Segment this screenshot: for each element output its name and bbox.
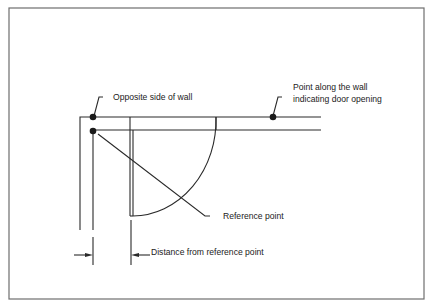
label-door-point-line2: indicating door opening <box>293 94 382 104</box>
arrowhead-right-icon <box>85 253 93 257</box>
leader-reference-point <box>98 134 210 216</box>
label-door-point-line1: Point along the wall <box>293 82 368 92</box>
dot-opposite-side <box>90 114 97 121</box>
leader-opposite-side <box>94 97 103 116</box>
arrowhead-left-icon <box>131 253 139 257</box>
door-measurement-diagram: Opposite side of wall Point along the wa… <box>0 0 432 306</box>
door-swing-arc <box>133 117 216 216</box>
leader-door-point <box>273 97 282 116</box>
label-opposite-side: Opposite side of wall <box>113 92 192 102</box>
wall-inner-line <box>93 130 321 230</box>
label-reference-point: Reference point <box>223 211 284 221</box>
dot-door-opening <box>270 114 277 121</box>
dot-reference-point <box>90 128 97 135</box>
label-distance: Distance from reference point <box>151 247 264 257</box>
